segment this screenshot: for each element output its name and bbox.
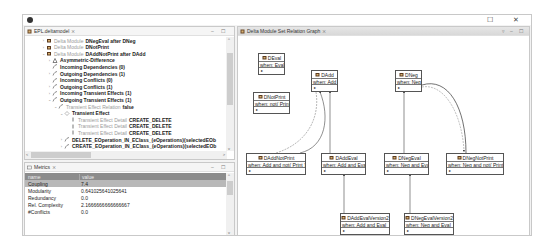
delta-module-icon	[258, 94, 263, 99]
graph-node-deval[interactable]: DEvalwhen: Eval▸	[258, 53, 285, 75]
metrics-vertical-scrollbar[interactable]: ^ v	[226, 173, 234, 235]
graph-node-dnotprint[interactable]: DNotPrintwhen: not( Print )▸	[253, 92, 290, 114]
node-condition: when: Add	[312, 78, 337, 85]
node-title: DNegEvalVersion2	[405, 214, 453, 221]
node-attributes-compartment: ▸	[447, 168, 503, 174]
graph-node-daddeval[interactable]: DAddEvalwhen: Add and Eval▸	[321, 153, 366, 175]
scroll-left-icon[interactable]: <	[26, 152, 28, 157]
graph-canvas[interactable]: DEvalwhen: Eval▸DNotPrintwhen: not( Prin…	[238, 37, 529, 235]
metrics-row[interactable]: Rel. Complexity2.1666666666666667	[25, 201, 227, 208]
tab-epl-deltamodel[interactable]: EPL.deltamodel ⨯	[27, 28, 75, 34]
transient-effect-detail-icon	[70, 124, 76, 129]
maximize-view-button[interactable]: ☐	[519, 28, 523, 34]
tree-hscroll-thumb[interactable]	[31, 152, 91, 158]
tab-close-icon[interactable]: ⨯	[52, 164, 56, 170]
delta-module-icon	[392, 155, 397, 160]
tree-item-label: CREATE_EOperation_IN_EClass_(eOperations…	[72, 143, 216, 149]
tree-item-label: CREATE_DELETE	[129, 123, 172, 129]
delta-module-icon	[258, 155, 263, 160]
metric-name: Redundancy	[25, 195, 79, 201]
tab-delta-module-set-relation-graph[interactable]: Delta Module Set Relation Graph ⨯	[240, 28, 326, 34]
metrics-row[interactable]: Coupling7.4	[25, 180, 227, 187]
node-attributes-compartment: ▸	[396, 85, 421, 91]
column-header-name[interactable]: name	[25, 174, 79, 180]
asymmetric-difference-icon	[52, 58, 58, 63]
metric-value: 2.1666666666666667	[79, 202, 141, 208]
metrics-row[interactable]: Redundancy0.0	[25, 194, 227, 201]
close-button[interactable]: ✕	[513, 16, 519, 24]
minimize-view-button[interactable]: –	[510, 28, 513, 34]
edge-dnegnotprint-dneg-dashed[interactable]	[422, 87, 464, 151]
transient-effect-detail-icon	[70, 130, 76, 135]
delta-module-icon	[46, 45, 52, 50]
app-window: ☐ ✕ EPL.deltamodel ⨯ – ☐ ›Delta ModuleDN…	[22, 14, 532, 236]
transient-effect-detail-icon	[70, 117, 76, 122]
edge-dnegnotprint-dneg[interactable]	[422, 84, 466, 153]
minimize-view-button[interactable]: –	[211, 164, 214, 170]
tree-item-label: DAddNotPrint after DAdd	[85, 51, 145, 57]
tab-title: EPL.deltamodel	[34, 28, 69, 34]
metrics-row[interactable]: Modularity0.641025641025641	[25, 187, 227, 194]
graph-node-dneg[interactable]: DNegwhen: Neg▸	[395, 70, 422, 92]
operation-icon	[64, 144, 70, 149]
relation-graph-view: Delta Module Set Relation Graph ⨯ ▿ – ☐	[237, 26, 530, 236]
node-condition: when: Neg and Eval	[385, 161, 428, 168]
tree-item-label: Incoming Conflicts (0)	[60, 77, 113, 83]
maximize-view-button[interactable]: ☐	[221, 28, 225, 34]
node-title: DNotPrint	[254, 93, 289, 100]
scroll-up-icon[interactable]: ^	[228, 173, 230, 178]
tab-metrics[interactable]: Metrics ⨯	[27, 164, 56, 170]
eclipse-app-icon	[27, 17, 33, 23]
tree-vertical-scrollbar[interactable]: ^ v	[226, 37, 234, 151]
minimize-view-button[interactable]: –	[211, 28, 214, 34]
column-header-value[interactable]: value	[79, 174, 141, 180]
graph-node-dnegeval[interactable]: DNegEvalwhen: Neg and Eval▸	[384, 153, 429, 175]
tree-horizontal-scrollbar[interactable]: < >	[25, 151, 227, 159]
maximize-button[interactable]: ☐	[487, 16, 493, 24]
outgoing-transient-effects-icon	[52, 97, 58, 102]
metrics-vscroll-thumb[interactable]	[227, 181, 233, 195]
node-condition: when: not( Print )	[254, 100, 289, 107]
graph-node-daddevalversion2[interactable]: DAddEvalVersion2when: Add and Eval▸	[340, 213, 390, 235]
scroll-right-icon[interactable]: >	[223, 152, 225, 157]
tree-item-type: Transient Effect Detail	[78, 130, 127, 136]
incoming-dependencies-icon	[52, 64, 58, 69]
metric-value: 7.4	[79, 181, 141, 187]
node-name: DAddNotPrint	[264, 155, 295, 161]
node-attributes-compartment: ▸	[259, 68, 284, 74]
node-name: DNegNotPrint	[463, 155, 494, 161]
outgoing-conflicts-icon	[52, 84, 58, 89]
node-name: DNegEvalVersion2	[411, 215, 453, 221]
scroll-down-icon[interactable]: v	[228, 146, 230, 151]
delta-module-icon	[405, 215, 410, 220]
tab-close-icon[interactable]: ⨯	[322, 28, 326, 34]
title-bar: ☐ ✕	[23, 15, 531, 25]
tree-item-label: false	[122, 104, 133, 110]
view-menu-button[interactable]: ▿	[502, 28, 505, 34]
tree-item-label: Incoming Transient Effects (1)	[60, 90, 131, 96]
tab-close-icon[interactable]: ⨯	[71, 28, 75, 34]
delta-module-icon	[315, 72, 320, 77]
node-title: DNegEval	[385, 154, 428, 161]
delta-module-icon	[262, 55, 267, 60]
node-name: DAddEval	[335, 155, 357, 161]
graph-node-dnegevalversion2[interactable]: DNegEvalVersion2when: Neg and Eval▸	[404, 213, 454, 235]
metrics-row[interactable]: #Conflicts0.0	[25, 208, 227, 215]
maximize-view-button[interactable]: ☐	[221, 164, 225, 170]
graph-node-daddnotprint[interactable]: DAddNotPrintwhen: Add and not( Print )▸	[246, 153, 306, 175]
graph-node-dadd[interactable]: DAddwhen: Add▸	[311, 70, 338, 92]
metrics-table-header: name value	[25, 173, 227, 180]
tree-item[interactable]: ›CREATE_EOperation_IN_EClass_(eOperation…	[59, 143, 216, 150]
deltamodel-file-icon	[27, 29, 32, 34]
scroll-down-icon[interactable]: v	[228, 230, 230, 235]
tree-item-label: Outgoing Transient Effects (1)	[60, 97, 131, 103]
metrics-icon	[27, 165, 32, 170]
graph-node-dnegnotprint[interactable]: DNegNotPrintwhen: Neg and not( Print )▸	[446, 153, 504, 175]
tree-item-type: Transient Effect Detail	[78, 123, 127, 129]
node-name: DNeg	[405, 72, 418, 78]
tree-item-label: Asymmetric-Difference	[60, 57, 115, 63]
operation-icon	[64, 137, 70, 142]
scroll-up-icon[interactable]: ^	[228, 37, 230, 42]
node-title: DAddNotPrint	[247, 154, 305, 161]
tree-vscroll-thumb[interactable]	[227, 53, 233, 105]
